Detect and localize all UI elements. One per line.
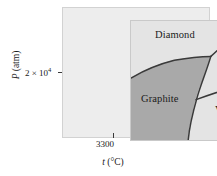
x-axis-symbol: t [102,157,105,167]
region-label-diamond: Diamond [155,29,195,40]
y-axis-unit: (atm) [11,51,21,72]
x-axis-tick-label: 3300 [96,139,114,149]
plot-frame-outer: Diamond Graphite Liquid Vapor [62,7,210,138]
x-axis-tick-mark [113,133,114,138]
x-axis-label: t (°C) [78,157,148,167]
y-tick-exponent: 4 [48,66,51,73]
y-tick-mantissa: 2 × 10 [25,68,48,78]
y-axis-symbol: P [11,74,21,80]
y-axis-tick-label: 2 × 104 [25,66,51,78]
x-axis-unit: (°C) [107,157,123,167]
region-label-vapor: Vapor [215,104,217,115]
phase-diagram-figure: P (atm) 2 × 104 Diamond [0,0,217,176]
plot-area: Diamond Graphite Liquid Vapor [130,20,217,141]
y-axis-label: P (atm) [11,33,21,97]
region-label-graphite: Graphite [141,93,179,104]
